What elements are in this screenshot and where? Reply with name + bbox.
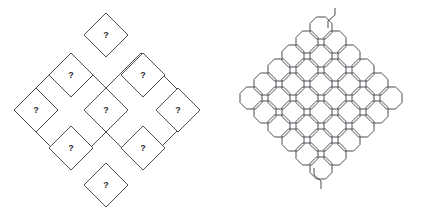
maze-octagon xyxy=(338,45,360,67)
maze-octagon xyxy=(310,129,332,151)
left-figure-panel: ? ? ? ? ? xyxy=(0,0,214,218)
maze-octagon xyxy=(324,87,346,109)
maze-octagon xyxy=(296,143,318,165)
maze-octagon xyxy=(310,73,332,95)
cell-top-label: ? xyxy=(103,30,109,40)
figure-pair-container: ? ? ? ? ? xyxy=(0,0,428,218)
maze-octagon xyxy=(296,31,318,53)
maze-octagon xyxy=(296,87,318,109)
maze-octagon xyxy=(338,73,360,95)
cell-left-label: ? xyxy=(33,105,39,115)
maze-octagon xyxy=(282,101,304,123)
maze-octagon xyxy=(324,115,346,137)
maze-octagon xyxy=(296,115,318,137)
diamond-lattice-puzzle: ? ? ? ? ? xyxy=(0,0,214,218)
cell-upper-right-label: ? xyxy=(140,70,146,80)
cell-right: ? xyxy=(156,88,200,132)
maze-octagon xyxy=(310,101,332,123)
maze-octagon xyxy=(324,31,346,53)
maze-octagon xyxy=(268,115,290,137)
maze-octagon xyxy=(352,115,374,137)
cell-lower-left: ? xyxy=(49,126,93,170)
maze-octagon xyxy=(324,59,346,81)
cell-top: ? xyxy=(84,13,128,57)
right-figure-panel xyxy=(214,0,428,218)
maze-octagon xyxy=(282,73,304,95)
maze-octagon xyxy=(380,87,402,109)
maze-octagon xyxy=(338,101,360,123)
cell-center: ? xyxy=(84,88,128,132)
cell-right-label: ? xyxy=(175,105,181,115)
cell-lower-right: ? xyxy=(121,126,165,170)
cell-upper-left-label: ? xyxy=(68,70,74,80)
cell-left: ? xyxy=(14,88,58,132)
maze-octagon xyxy=(324,143,346,165)
maze-octagon xyxy=(310,157,332,179)
cell-bottom: ? xyxy=(84,163,128,207)
cell-center-label: ? xyxy=(103,105,109,115)
maze-octagon xyxy=(254,73,276,95)
maze-octagon xyxy=(254,101,276,123)
octagon-maze-group xyxy=(240,8,402,189)
cell-bottom-label: ? xyxy=(103,180,109,190)
maze-octagon xyxy=(366,101,388,123)
cell-lower-left-label: ? xyxy=(68,143,74,153)
maze-octagon xyxy=(240,87,262,109)
cell-upper-left: ? xyxy=(49,53,93,97)
maze-octagon xyxy=(352,59,374,81)
maze-octagon xyxy=(366,73,388,95)
cell-upper-right: ? xyxy=(121,53,165,97)
maze-octagon xyxy=(338,129,360,151)
cell-lower-right-label: ? xyxy=(140,143,146,153)
maze-octagon xyxy=(296,59,318,81)
maze-octagon xyxy=(282,45,304,67)
maze-octagon xyxy=(268,59,290,81)
maze-octagon xyxy=(352,87,374,109)
maze-octagon xyxy=(282,129,304,151)
maze-octagon xyxy=(310,45,332,67)
maze-octagon xyxy=(268,87,290,109)
octagon-maze-pattern xyxy=(214,0,428,218)
